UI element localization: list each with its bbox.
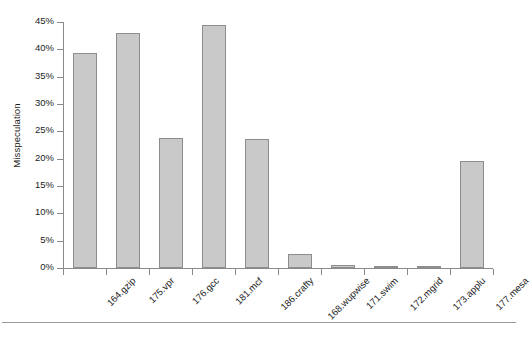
bar-slot — [321, 22, 364, 268]
y-axis-tick-label: 10% — [35, 206, 54, 217]
y-axis-tick-label: 35% — [35, 70, 54, 81]
x-axis-tick — [63, 269, 64, 275]
bar[interactable] — [288, 254, 312, 268]
y-axis-tick-label: 5% — [40, 234, 54, 245]
x-axis-tick — [493, 269, 494, 275]
y-axis-tick-label: 0% — [40, 261, 54, 272]
y-axis-tick-label: 30% — [35, 97, 54, 108]
y-axis-tick-label: 20% — [35, 152, 54, 163]
bar-slot — [149, 22, 192, 268]
x-axis-tick — [278, 269, 279, 275]
x-axis-category-label: 172.mgrid — [407, 275, 445, 313]
bar[interactable] — [116, 33, 140, 268]
bar[interactable] — [417, 266, 441, 268]
bar-slot — [106, 22, 149, 268]
x-axis-tick — [192, 269, 193, 275]
bar[interactable] — [460, 161, 484, 268]
x-axis-category-label: 177.mesa — [493, 275, 530, 312]
bar[interactable] — [245, 139, 269, 268]
bar-slot — [235, 22, 278, 268]
y-axis-tick-label: 40% — [35, 42, 54, 53]
bar-slot — [192, 22, 235, 268]
plot-area: 0%5%10%15%20%25%30%35%40%45% 164.gzip175… — [63, 22, 493, 269]
y-axis-title: Misspeculation — [11, 76, 22, 196]
x-axis-category-label: 168.wupwise — [325, 275, 372, 322]
x-axis-tick — [149, 269, 150, 275]
bar-slot — [63, 22, 106, 268]
x-axis-category-label: 186.crafty — [278, 275, 315, 312]
x-axis-tick — [407, 269, 408, 275]
bar[interactable] — [159, 138, 183, 268]
x-axis-tick — [450, 269, 451, 275]
bar[interactable] — [73, 53, 97, 268]
x-axis-category-label: 176.gcc — [189, 275, 220, 306]
bar[interactable] — [331, 265, 355, 268]
bar[interactable] — [202, 25, 226, 268]
x-axis-category-label: 173.applu — [450, 275, 487, 312]
bar-slot — [278, 22, 321, 268]
x-axis-category-label: 164.gzip — [104, 275, 137, 308]
y-axis-tick-label: 15% — [35, 179, 54, 190]
y-axis-tick-label: 45% — [35, 15, 54, 26]
y-axis-tick-label: 25% — [35, 124, 54, 135]
x-axis-category-label: 175.vpr — [146, 275, 176, 305]
x-axis-category-label: 181.mcf — [232, 275, 264, 307]
bar-slot — [407, 22, 450, 268]
x-axis-tick — [364, 269, 365, 275]
x-axis-tick — [106, 269, 107, 275]
bar[interactable] — [374, 266, 398, 268]
bar-slot — [450, 22, 493, 268]
x-axis-tick — [321, 269, 322, 275]
page-divider-rule — [2, 322, 516, 323]
bar-slot — [364, 22, 407, 268]
x-axis-tick — [235, 269, 236, 275]
